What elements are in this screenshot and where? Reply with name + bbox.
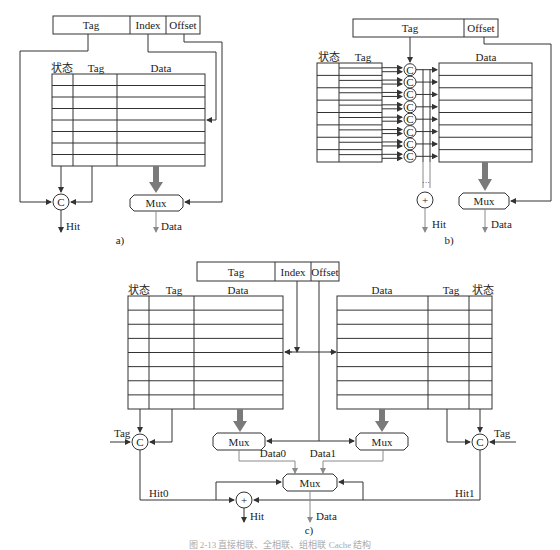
mux: Mux bbox=[459, 193, 509, 209]
header-data: Data bbox=[476, 51, 497, 63]
comparator-array: CCCCCCCC bbox=[382, 64, 437, 163]
svg-text:Mux: Mux bbox=[229, 436, 250, 448]
address-offset-field: Offset bbox=[169, 19, 196, 31]
svg-text:C: C bbox=[57, 196, 64, 208]
panel-b-fully-associative: Tag Offset 状态 Tag Data CCCCCCCC ··· + Hi… bbox=[317, 19, 551, 247]
way1-mux: Mux bbox=[356, 433, 408, 450]
header-data: Data bbox=[151, 62, 172, 74]
address-register: Tag Index Offset bbox=[53, 16, 200, 34]
way1-stored-tag-wire bbox=[447, 409, 470, 442]
comparator-label: C bbox=[406, 138, 413, 150]
address-tag-field: Tag bbox=[83, 19, 100, 31]
data-bus-arrow bbox=[478, 162, 492, 191]
svg-text:Mux: Mux bbox=[474, 195, 495, 207]
comparator: C bbox=[53, 194, 69, 210]
comparator-label: C bbox=[406, 101, 413, 113]
or-gate: + bbox=[236, 492, 252, 508]
comparator: C bbox=[404, 76, 416, 88]
address-register: Tag Index Offset bbox=[197, 262, 339, 281]
svg-text:+: + bbox=[422, 194, 428, 206]
way1-table bbox=[337, 296, 492, 409]
svg-text:Mux: Mux bbox=[300, 477, 321, 489]
header-tag: Tag bbox=[88, 62, 105, 74]
svg-text:Mux: Mux bbox=[372, 436, 393, 448]
cache-structure-diagram: Tag Index Offset 状态 Tag Data C Hit Mux D… bbox=[0, 0, 560, 550]
panel-c-set-associative: Tag Index Offset 状态 Tag Data Data Tag 状态… bbox=[110, 262, 516, 537]
stored-tag-wire bbox=[71, 166, 92, 202]
hit1-label: Hit1 bbox=[455, 487, 475, 499]
data-table bbox=[439, 63, 532, 162]
data1-label: Data1 bbox=[310, 447, 336, 459]
sublabel-c: c) bbox=[305, 524, 314, 537]
comparator: C bbox=[404, 113, 416, 125]
svg-text:C: C bbox=[476, 436, 483, 448]
svg-text:+: + bbox=[241, 494, 247, 506]
way1-header-status: 状态 bbox=[472, 283, 494, 296]
svg-text:C: C bbox=[136, 436, 143, 448]
address-index-field: Index bbox=[280, 266, 306, 278]
tag-table bbox=[317, 63, 382, 162]
data-bus-arrow bbox=[149, 166, 163, 193]
hit0-label: Hit0 bbox=[149, 487, 169, 499]
address-offset-field: Offset bbox=[311, 266, 338, 278]
way0-header-tag: Tag bbox=[166, 284, 183, 296]
comparator: C bbox=[404, 126, 416, 138]
address-tag-field: Tag bbox=[402, 22, 419, 34]
comparator-label: C bbox=[406, 88, 413, 100]
sublabel-a: a) bbox=[116, 234, 125, 247]
way0-header-status: 状态 bbox=[128, 283, 150, 296]
header-status: 状态 bbox=[51, 61, 73, 74]
address-index-field: Index bbox=[135, 19, 161, 31]
comparator: C bbox=[404, 64, 416, 76]
hit-output-label: Hit bbox=[66, 220, 80, 232]
hit-output-label: Hit bbox=[432, 218, 446, 230]
sublabel-b: b) bbox=[444, 234, 454, 247]
way0-data-bus-arrow bbox=[233, 409, 247, 432]
comparator: C bbox=[404, 101, 416, 113]
way1-comparator: C bbox=[472, 434, 488, 450]
panel-a-direct-mapped: Tag Index Offset 状态 Tag Data C Hit Mux D… bbox=[20, 16, 222, 247]
way0-tag-input-label: Tag bbox=[114, 427, 131, 439]
hit1-select-wire bbox=[339, 482, 363, 500]
way0-comparator: C bbox=[132, 434, 148, 450]
mux: Mux bbox=[130, 195, 183, 211]
data-output-label: Data bbox=[316, 510, 337, 522]
way0-stored-tag-wire bbox=[150, 409, 172, 442]
way1-header-data: Data bbox=[372, 284, 393, 296]
svg-text:Mux: Mux bbox=[146, 197, 167, 209]
ellipsis: ··· bbox=[422, 178, 430, 187]
way1-data-bus-arrow bbox=[375, 409, 389, 432]
address-offset-field: Offset bbox=[467, 22, 494, 34]
way0-table bbox=[128, 296, 283, 409]
address-register: Tag Offset bbox=[353, 19, 498, 37]
comparator: C bbox=[404, 138, 416, 150]
way1-tag-input-label: Tag bbox=[494, 427, 511, 439]
figure-caption: 图 2-13 直接相联、全相联、组相联 Cache 结构 bbox=[189, 539, 372, 550]
comparator-label: C bbox=[406, 76, 413, 88]
final-mux: Mux bbox=[283, 474, 337, 491]
way0-mux: Mux bbox=[213, 433, 265, 450]
data-output-label: Data bbox=[161, 220, 182, 232]
comparator-label: C bbox=[406, 64, 413, 76]
header-tag: Tag bbox=[355, 51, 372, 63]
comparator-label: C bbox=[406, 113, 413, 125]
cache-table bbox=[52, 74, 205, 166]
or-gate: + bbox=[417, 192, 433, 208]
way1-header-tag: Tag bbox=[443, 284, 460, 296]
comparator: C bbox=[404, 150, 416, 162]
header-status: 状态 bbox=[318, 50, 340, 63]
data-output-label: Data bbox=[491, 218, 512, 230]
comparator-label: C bbox=[406, 150, 413, 162]
way0-header-data: Data bbox=[228, 284, 249, 296]
comparator-label: C bbox=[406, 126, 413, 138]
hit-output-label: Hit bbox=[250, 510, 264, 522]
address-tag-field: Tag bbox=[228, 266, 245, 278]
comparator: C bbox=[404, 88, 416, 100]
data0-label: Data0 bbox=[260, 447, 287, 459]
